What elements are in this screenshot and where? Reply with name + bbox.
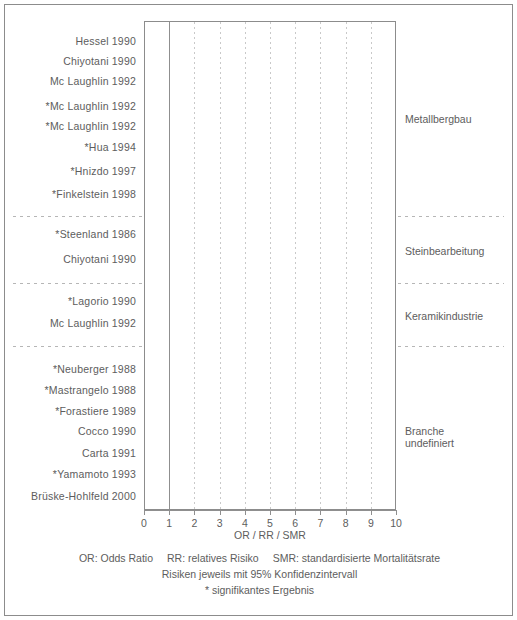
group-label: Keramikindustrie [405,310,483,322]
gridline-9 [371,22,372,509]
axis-tick-label: 1 [166,517,172,529]
plot-area [144,21,396,510]
group-label: Steinbearbeitung [405,245,484,257]
axis-tick [169,510,170,515]
axis-tick [270,510,271,515]
axis-tick-label: 8 [343,517,349,529]
footer-smr: SMR: standardisierte Mortalitätsrate [273,552,440,564]
axis-tick-label: 7 [317,517,323,529]
group-label-line: Steinbearbeitung [405,245,484,257]
axis-tick [371,510,372,515]
axis-tick-label: 10 [390,517,402,529]
axis-tick-label: 2 [191,517,197,529]
axis-tick [396,510,397,515]
reference-line-1 [169,22,170,509]
axis-tick [144,510,145,515]
axis-tick [220,510,221,515]
axis-tick-label: 5 [267,517,273,529]
axis-tick [346,510,347,515]
axis-tick-label: 3 [217,517,223,529]
axis-tick-label: 6 [292,517,298,529]
gridline-7 [320,22,321,509]
footer-line-3: * signifikantes Ergebnis [5,584,514,596]
axis-tick [245,510,246,515]
group-label: Brancheundefiniert [405,425,454,449]
footer-line-1: OR: Odds RatioRR: relatives RisikoSMR: s… [5,552,514,564]
x-axis-title: OR / RR / SMR [144,529,396,541]
forest-plot-figure: Hessel 1990Chiyotani 1990Mc Laughlin 199… [0,0,517,620]
footer-or: OR: Odds Ratio [79,552,153,564]
gridline-2 [194,22,195,509]
axis-tick [320,510,321,515]
axis-tick-label: 4 [242,517,248,529]
gridline-6 [295,22,296,509]
axis-tick [295,510,296,515]
axis-tick [194,510,195,515]
gridline-8 [346,22,347,509]
group-label-line: Keramikindustrie [405,310,483,322]
footer-rr: RR: relatives Risiko [167,552,259,564]
footer-line-2: Risiken jeweils mit 95% Konfidenzinterva… [5,568,514,580]
axis-tick-label: 9 [368,517,374,529]
gridline-3 [220,22,221,509]
group-label-line: undefiniert [405,437,454,449]
gridline-5 [270,22,271,509]
group-label-line: Metallbergbau [405,113,472,125]
gridline-4 [245,22,246,509]
axis-tick-label: 0 [141,517,147,529]
figure-border: Hessel 1990Chiyotani 1990Mc Laughlin 199… [4,4,513,616]
group-label-line: Branche [405,425,454,437]
group-label: Metallbergbau [405,113,472,125]
